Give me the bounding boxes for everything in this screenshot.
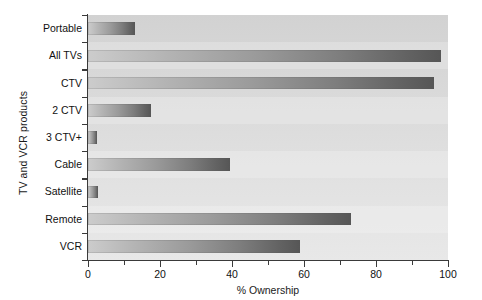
y-axis-tick-mark: [82, 97, 87, 98]
x-axis-tick-mark: [304, 261, 305, 267]
y-axis-tick-label: 2 CTV: [24, 104, 82, 117]
y-axis-tick-labels: PortableAll TVsCTV2 CTV3 CTV+CableSatell…: [24, 15, 82, 260]
x-axis-minor-tick-mark: [196, 261, 197, 265]
y-axis-tick-mark: [82, 124, 87, 125]
bar: [88, 50, 441, 63]
bar: [88, 213, 351, 226]
y-axis-tick-mark: [82, 15, 87, 16]
y-axis-tick-mark: [82, 151, 87, 152]
bar: [88, 158, 230, 171]
y-axis-tick-label: CTV: [24, 77, 82, 90]
y-axis-tick-mark: [82, 178, 87, 179]
bar-chart: TV and VCR products PortableAll TVsCTV2 …: [0, 0, 482, 300]
y-axis-tick-mark: [82, 206, 87, 207]
y-axis-tick-label: Portable: [24, 22, 82, 35]
x-axis-tick-label: 100: [428, 268, 468, 281]
x-axis-tick-mark: [160, 261, 161, 267]
x-axis-tick-label: 20: [140, 268, 180, 281]
y-axis-tick-mark: [82, 233, 87, 234]
bar: [88, 186, 98, 199]
x-axis-tick-label: 0: [68, 268, 108, 281]
bar: [88, 131, 97, 144]
y-axis-line: [87, 14, 88, 261]
y-axis-tick-label: Cable: [24, 158, 82, 171]
x-axis-tick-mark: [88, 261, 89, 267]
bar: [88, 240, 300, 253]
x-axis-tick-mark: [376, 261, 377, 267]
x-axis-tick-mark: [448, 261, 449, 267]
y-axis-tick-mark: [82, 69, 87, 70]
y-axis-tick-mark: [82, 260, 87, 261]
plot-area: [88, 15, 448, 260]
x-axis-minor-tick-mark: [268, 261, 269, 265]
y-axis-tick-mark: [82, 42, 87, 43]
y-axis-tick-label: Satellite: [24, 185, 82, 198]
x-axis-title: % Ownership: [88, 284, 448, 297]
x-axis-tick-label: 60: [284, 268, 324, 281]
x-axis-minor-tick-mark: [412, 261, 413, 265]
x-axis-tick-label: 40: [212, 268, 252, 281]
y-axis-tick-label: VCR: [24, 240, 82, 253]
bar: [88, 77, 434, 90]
x-axis-minor-tick-mark: [340, 261, 341, 265]
y-axis-tick-label: All TVs: [24, 49, 82, 62]
bar: [88, 104, 151, 117]
y-axis-tick-label: Remote: [24, 213, 82, 226]
bar: [88, 22, 135, 35]
x-axis-minor-tick-mark: [124, 261, 125, 265]
y-axis-tick-label: 3 CTV+: [24, 131, 82, 144]
x-axis-tick-label: 80: [356, 268, 396, 281]
x-axis-tick-mark: [232, 261, 233, 267]
